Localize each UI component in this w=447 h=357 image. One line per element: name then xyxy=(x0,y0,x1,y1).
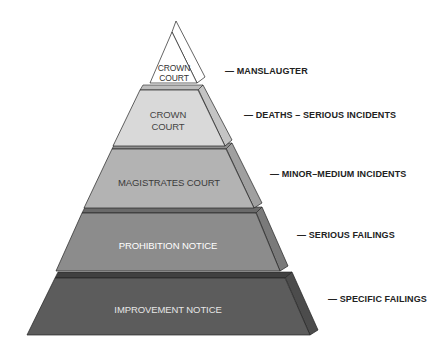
tier-3-label: MAGISTRATES COURT xyxy=(118,177,220,188)
tier-2-ledge xyxy=(140,85,203,90)
enforcement-pyramid-diagram: IMPROVEMENT NOTICE PROHIBITION NOTICE MA… xyxy=(0,0,447,357)
tier-5-label: IMPROVEMENT NOTICE xyxy=(114,304,221,315)
tier-improvement-notice: IMPROVEMENT NOTICE xyxy=(27,272,318,335)
description-specific-failings: — SPECIFIC FAILINGS xyxy=(328,294,427,304)
tier-2-label-line-2: COURT xyxy=(151,121,184,132)
tier-crown-court-manslaughter: CROWN COURT xyxy=(150,21,205,83)
tier-4-label: PROHIBITION NOTICE xyxy=(119,240,217,251)
tier-5-ledge xyxy=(55,272,292,278)
description-deaths-serious-incidents: — DEATHS – SERIOUS INCIDENTS xyxy=(244,110,396,120)
tier-crown-court-deaths: CROWN COURT xyxy=(113,85,232,146)
description-minor-medium-incidents: — MINOR–MEDIUM INCIDENTS xyxy=(270,169,406,179)
tier-2-label-line-1: CROWN xyxy=(150,109,187,120)
tier-1-label-line-1: CROWN xyxy=(158,63,191,73)
description-manslaughter: — MANSLAUGTER xyxy=(225,66,308,76)
description-serious-failings: — SERIOUS FAILINGS xyxy=(297,230,395,240)
tier-magistrates-court: MAGISTRATES COURT xyxy=(84,143,262,208)
tier-1-label-line-2: COURT xyxy=(159,73,189,83)
tier-prohibition-notice: PROHIBITION NOTICE xyxy=(56,207,288,271)
